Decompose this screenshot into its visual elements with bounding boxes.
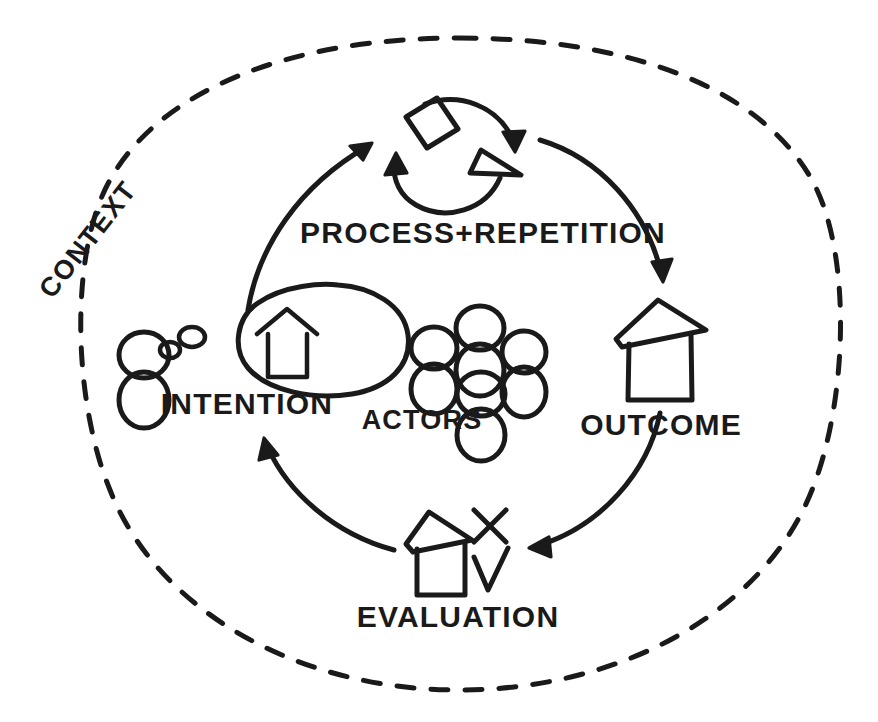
check-icon <box>474 548 508 590</box>
node-process[interactable]: PROCESS+REPETITION <box>300 98 666 249</box>
square-shape-icon <box>406 98 458 148</box>
thought-house-roof-icon <box>257 309 317 334</box>
thought-house-body-icon <box>268 334 307 377</box>
node-evaluation[interactable]: EVALUATION <box>357 510 560 633</box>
diagram-canvas: CONTEXT <box>0 0 878 722</box>
node-label-intention: INTENTION <box>161 387 333 420</box>
arrow-evaluation-to-intention <box>259 438 394 550</box>
node-outcome[interactable]: OUTCOME <box>580 300 742 441</box>
loop-arrow-head-up <box>385 153 407 175</box>
process-cycle-diagram: CONTEXT <box>0 0 878 722</box>
thought-cloud-icon <box>238 284 408 395</box>
context-ellipse <box>81 38 841 690</box>
arrow-process-to-outcome <box>540 140 672 282</box>
context-boundary <box>81 38 841 690</box>
arrow-head <box>529 537 551 557</box>
arrow-shaft <box>540 140 661 272</box>
house-roof-icon <box>406 512 472 552</box>
loop-arrow-head-down <box>503 131 525 152</box>
node-label-evaluation: EVALUATION <box>357 600 560 633</box>
node-label-outcome: OUTCOME <box>580 408 742 441</box>
arrow-head <box>652 259 672 282</box>
arrow-shaft <box>268 448 394 550</box>
thought-bubble-medium-icon <box>179 327 205 347</box>
loop-arc-top <box>425 100 513 140</box>
context-label: CONTEXT <box>33 175 143 303</box>
center-actors-group[interactable]: ACTORS <box>362 306 546 461</box>
arrow-head <box>259 438 278 460</box>
center-label-actors: ACTORS <box>362 405 483 435</box>
node-label-process: PROCESS+REPETITION <box>300 216 666 249</box>
context-label-group: CONTEXT <box>33 175 143 303</box>
triangle-shape-icon <box>470 150 521 175</box>
